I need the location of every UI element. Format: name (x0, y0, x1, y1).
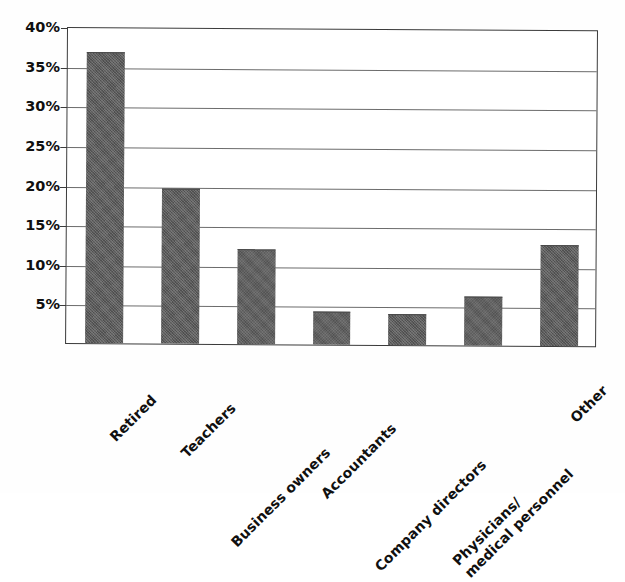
x-axis-tick-label: Retired (107, 392, 161, 446)
y-axis-tick-label: 35% (0, 59, 60, 75)
bar (464, 296, 502, 345)
x-axis-tick-label-line: Business owners (227, 444, 333, 550)
bar (313, 311, 351, 345)
y-axis-tick (61, 107, 68, 108)
x-axis-tick-label-line: Teachers (178, 400, 239, 461)
bar (161, 189, 200, 344)
y-axis-tick (59, 305, 66, 306)
y-axis-tick (61, 28, 68, 29)
y-axis-tick-label: 5% (0, 296, 60, 312)
y-axis-tick (60, 147, 67, 148)
x-axis-labels: RetiredTeachersBusiness ownersAccountant… (67, 344, 598, 489)
y-axis-tick-label: 25% (0, 138, 60, 154)
x-axis-tick-label: Teachers (178, 400, 240, 462)
bar (237, 249, 276, 344)
bar (85, 52, 125, 343)
y-axis-tick (61, 68, 68, 69)
x-axis-tick-label: Business owners (227, 444, 333, 550)
plot-area (65, 27, 598, 347)
x-axis-tick-label: Accountants (317, 420, 399, 502)
y-axis-tick-label: 30% (0, 98, 60, 114)
bar-series (66, 28, 597, 346)
y-axis-tick-label: 10% (0, 257, 60, 273)
y-axis-tick-label: 15% (0, 217, 60, 233)
x-axis-tick-label-line: medical personnel (462, 466, 578, 582)
y-axis-labels: 5%10%15%20%25%30%35%40% (0, 27, 60, 344)
y-axis-tick-label: 20% (0, 178, 60, 194)
x-axis-tick-label: Other (567, 382, 611, 426)
y-axis-tick (60, 226, 67, 227)
x-axis-tick-label-line: Retired (107, 392, 160, 445)
y-axis-tick-label: 40% (0, 19, 60, 35)
bar (388, 314, 426, 345)
bar (540, 245, 579, 346)
y-axis-tick (60, 266, 67, 267)
y-axis-tick (60, 186, 67, 187)
x-axis-tick-label-line: Other (567, 382, 610, 425)
